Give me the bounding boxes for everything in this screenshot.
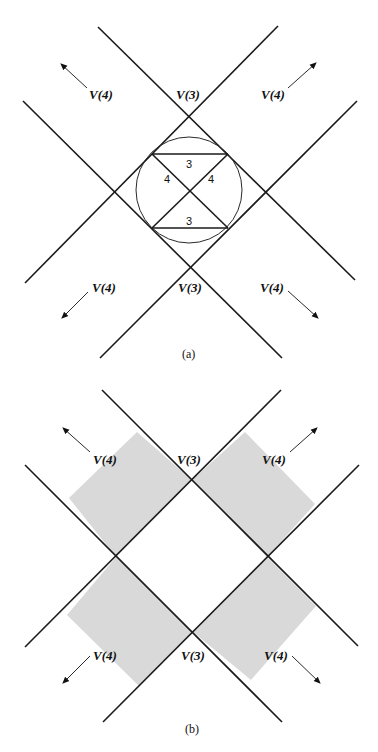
label-top-left: V(4) [89,87,113,102]
line-ascending-lower [100,101,357,358]
arrow-up-left-icon [63,428,90,452]
caption-a: (a) [182,347,195,361]
arrow-up-right-icon [288,63,316,88]
arrow-down-left-icon [63,656,90,683]
label-bottom-left: V(4) [93,648,117,663]
label-bottom-center: V(3) [181,648,205,663]
line-ascending-upper [25,26,278,283]
shaded-region-top-right [192,432,315,557]
arrow-up-right-icon [290,428,317,452]
arrow-up-left-icon [61,64,87,88]
label-top-right: V(4) [262,452,286,467]
label-bottom-right: V(4) [264,648,288,663]
arrow-down-left-icon [62,292,88,318]
panel-a: 3 4 4 3 V(4) V(3) V(4) V(4) V(3) V(4) (a… [23,26,357,361]
label-top-center: V(3) [177,452,201,467]
panel-b: V(4) V(3) V(4) V(4) V(3) V(4) (b) [25,390,359,736]
edge-label-top-chord: 3 [186,158,192,170]
caption-b: (b) [185,722,199,736]
figure-canvas: 3 4 4 3 V(4) V(3) V(4) V(4) V(3) V(4) (a… [0,0,378,752]
edge-label-right-diag: 4 [208,173,214,185]
label-bottom-left: V(4) [92,280,116,295]
arrow-down-right-icon [288,291,318,318]
label-bottom-center: V(3) [178,280,202,295]
label-top-right: V(4) [261,87,285,102]
line-descending-lower [23,101,282,358]
label-bottom-right: V(4) [260,280,284,295]
edge-label-bottom-chord: 3 [186,215,192,227]
edge-label-left-diag: 4 [164,173,170,185]
shaded-region-top-left [69,432,192,557]
label-top-center: V(3) [176,87,200,102]
shaded-region-bottom-left [67,557,193,686]
arrow-down-right-icon [292,656,320,683]
label-top-left: V(4) [93,452,117,467]
